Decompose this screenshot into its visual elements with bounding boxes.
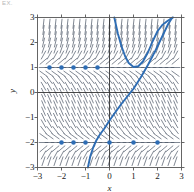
slope-segment [90, 44, 93, 53]
slope-segment [114, 44, 117, 53]
slope-segment [71, 51, 76, 60]
y-tick-label: −1 [13, 112, 35, 122]
x-tick-label: −3 [26, 171, 50, 181]
equilibrium-point [47, 65, 52, 70]
x-tick-label: 3 [170, 171, 194, 181]
slope-segment [65, 51, 70, 60]
slope-segment [84, 157, 87, 166]
equilibrium-point [83, 140, 88, 145]
slope-segment [126, 44, 129, 53]
slope-segment [41, 51, 46, 60]
slope-segment [131, 51, 136, 60]
slope-segment [168, 157, 171, 166]
slope-segment [173, 151, 178, 160]
slope-segment [101, 151, 106, 160]
slope-segment [53, 51, 58, 60]
slope-segment [162, 44, 165, 53]
slope-segment [42, 44, 45, 53]
slope-segment [84, 44, 87, 53]
slope-segment [47, 151, 52, 160]
slope-segment [132, 44, 135, 53]
slope-segment [137, 51, 142, 60]
slope-segment [102, 157, 105, 166]
slope-segment [113, 51, 118, 60]
slope-segment [138, 44, 141, 53]
y-tick-label: −2 [13, 137, 35, 147]
slope-segment [155, 151, 160, 160]
slope-segment [119, 151, 124, 160]
slope-segment [174, 157, 177, 166]
slope-segment [96, 44, 99, 53]
slope-segment [65, 151, 70, 160]
slope-segment [78, 157, 81, 166]
slope-segment [53, 151, 58, 160]
slope-segment [48, 44, 51, 53]
slope-segment [59, 151, 64, 160]
slope-segment [72, 157, 75, 166]
slope-segment [150, 157, 153, 166]
slope-segment [83, 51, 88, 60]
slope-segment [161, 51, 166, 60]
slope-segment [156, 157, 159, 166]
slope-segment [144, 44, 147, 53]
slope-segment [66, 157, 69, 166]
slope-segment [168, 44, 171, 53]
slope-segment [41, 151, 46, 160]
slope-segment [59, 51, 64, 60]
equilibrium-point [59, 140, 64, 145]
slope-segment [149, 151, 154, 160]
x-tick-label: 0 [98, 171, 122, 181]
slope-segment [173, 51, 178, 60]
slope-segment [60, 157, 63, 166]
slope-segment [71, 151, 76, 160]
y-tick-label: 2 [13, 37, 35, 47]
slope-segment [132, 157, 135, 166]
equilibrium-point [107, 140, 112, 145]
y-axis-title: y [7, 83, 17, 99]
x-tick-label: 2 [146, 171, 170, 181]
slope-segment [89, 51, 94, 60]
equilibrium-point [71, 140, 76, 145]
x-tick-label: −2 [50, 171, 74, 181]
slope-segment [162, 157, 165, 166]
y-tick-label: −3 [13, 162, 35, 172]
slope-segment [96, 157, 99, 166]
slope-segment [143, 151, 148, 160]
slope-segment [77, 51, 82, 60]
x-tick-label: 1 [122, 171, 146, 181]
slope-segment [167, 51, 172, 60]
slope-segment [47, 51, 52, 60]
slope-segment [131, 151, 136, 160]
slope-segment [113, 151, 118, 160]
equilibrium-point [131, 140, 136, 145]
slope-segment [137, 151, 142, 160]
equilibrium-point [59, 65, 64, 70]
slope-segment [48, 157, 51, 166]
slope-segment [167, 151, 172, 160]
slope-segment [95, 151, 100, 160]
slope-segment [101, 51, 106, 60]
slope-segment [83, 151, 88, 160]
equilibrium-point [155, 140, 160, 145]
equilibrium-point [71, 65, 76, 70]
slope-segment [78, 44, 81, 53]
y-tick-label: 1 [13, 62, 35, 72]
x-tick-label: −1 [74, 171, 98, 181]
slope-segment [174, 44, 177, 53]
slope-segment [95, 51, 100, 60]
slope-segment [60, 44, 63, 53]
slope-segment [138, 157, 141, 166]
y-tick-label: 3 [13, 12, 35, 22]
slope-segment [161, 151, 166, 160]
slope-segment [144, 157, 147, 166]
slope-segment [125, 151, 130, 160]
equilibrium-point [83, 65, 88, 70]
figure-container: EX. −3−2−10123 3210−1−2−3 x y [0, 0, 193, 191]
slope-segment [120, 157, 123, 166]
x-axis-title: x [98, 183, 122, 192]
slope-segment [126, 157, 129, 166]
slope-segment [66, 44, 69, 53]
equilibrium-point [95, 65, 100, 70]
slope-segment [54, 44, 57, 53]
slope-segment [77, 151, 82, 160]
